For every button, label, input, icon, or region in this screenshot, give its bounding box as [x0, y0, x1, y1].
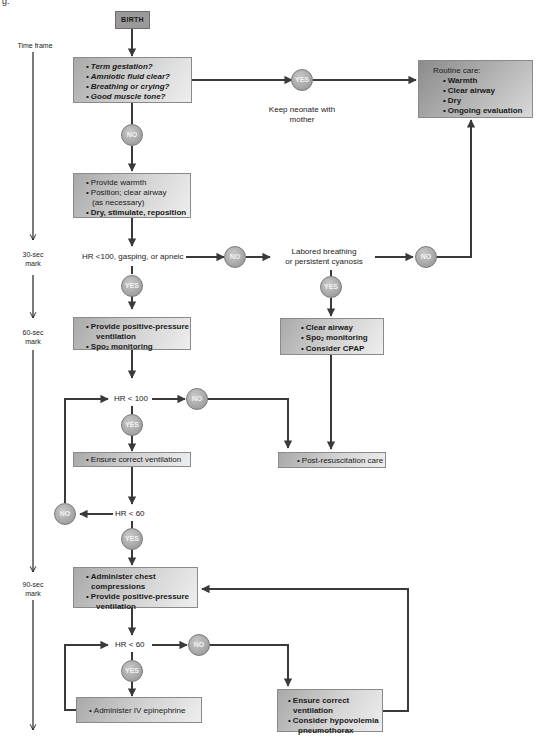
decision-yes-initial: YES — [291, 69, 313, 91]
routine-care-box: Routine care: Warmth Clear airway Dry On… — [418, 60, 533, 118]
labored-line1: Labored breathing — [272, 247, 376, 257]
decision-yes-hr60-a: YES — [121, 528, 143, 550]
decision-yes-gasping: YES — [121, 275, 143, 297]
birth-box: BIRTH — [115, 11, 150, 29]
decision-no-hr100: NO — [186, 388, 208, 410]
chest-compressions-box: Administer chest compressions Provide po… — [73, 567, 198, 608]
mark-90-line2: mark — [10, 589, 56, 598]
decision-no-initial: NO — [121, 124, 143, 146]
decision-no-hr60-a: NO — [54, 503, 76, 525]
decision-yes-hr100: YES — [121, 414, 143, 436]
cpap-spo2-prefix: Spo — [306, 333, 321, 342]
step-as-necessary: (as necessary) — [84, 198, 190, 208]
ensure-ventilation-hypovolemia-box: Ensure correct ventilation Consider hypo… — [277, 689, 383, 732]
mark-60-line2: mark — [10, 337, 56, 346]
step-clear-airway: Position; clear airway — [84, 188, 190, 198]
timeline-mark-60: 60-sec mark — [10, 328, 56, 346]
decision-no-gasping: NO — [224, 246, 246, 268]
routine-ongoing-evaluation: Ongoing evaluation — [441, 106, 532, 116]
final-pneumothorax-text: pneumothorax — [293, 726, 354, 735]
hr-gasping-apneic-label: HR <100, gasping, or apneic — [82, 252, 184, 262]
routine-dry: Dry — [441, 96, 532, 106]
question-breathing: Breathing or crying? — [84, 82, 191, 92]
mark-60-line1: 60-sec — [10, 328, 56, 337]
epinephrine-box: Administer IV epinephrine — [76, 697, 202, 723]
cpap-consider: Consider CPAP — [299, 344, 383, 354]
compressions-ppv-item: Provide positive-pressureventilation — [84, 592, 197, 612]
step-as-necessary-text: (as necessary) — [92, 198, 144, 207]
question-amniotic-fluid: Amniotic fluid clear? — [84, 72, 191, 82]
hr-lt-60-label-a: HR < 60 — [115, 509, 145, 519]
mark-90-line1: 90-sec — [10, 580, 56, 589]
initial-steps-box: Provide warmth Position; clear airway (a… — [73, 173, 191, 218]
cpap-spo2-suffix: monitoring — [324, 333, 368, 342]
timeline-mark-30: 30-sec mark — [10, 250, 56, 268]
routine-care-heading: Routine care: — [433, 66, 532, 76]
compressions-item: Administer chest compressions — [84, 572, 197, 592]
labored-breathing-label: Labored breathing or persistent cyanosis — [272, 247, 376, 267]
cpap-spo2: Spo2 monitoring — [299, 333, 383, 344]
ppv-item: Provide positive-pressureventilation — [84, 322, 190, 342]
decision-no-hr60-b: NO — [188, 634, 210, 656]
spo2-suffix: monitoring — [109, 342, 153, 351]
labored-line2: or persistent cyanosis — [272, 257, 376, 267]
step-provide-warmth: Provide warmth — [84, 178, 190, 188]
decision-yes-labored: YES — [320, 276, 342, 298]
final-ensure-ventilation: Ensure correct ventilation — [286, 696, 382, 716]
compressions-ppv-text: Provide positive-pressure — [91, 592, 189, 601]
ensure-ventilation-item: Ensure correct ventilation — [84, 455, 190, 465]
timeline-title: Time frame — [10, 41, 60, 50]
ppv-item-text-cont: ventilation — [91, 332, 136, 341]
timeline-mark-90: 90-sec mark — [10, 580, 56, 598]
routine-clear-airway: Clear airway — [441, 86, 532, 96]
step-dry-stimulate: Dry, stimulate, reposition — [84, 208, 190, 218]
mark-30-line2: mark — [10, 259, 56, 268]
final-consider-hypovolemia: Consider hypovolemiapneumothorax — [286, 716, 382, 736]
decision-yes-hr60-b: YES — [121, 660, 143, 682]
ppv-item-text: Provide positive-pressure — [91, 322, 189, 331]
spo2-item: Spo2 monitoring — [84, 342, 190, 353]
routine-warmth: Warmth — [441, 76, 532, 86]
spo2-prefix: Spo — [91, 342, 106, 351]
ensure-ventilation-box: Ensure correct ventilation — [73, 452, 191, 467]
keep-with-mother-label: Keep neonate with mother — [262, 105, 342, 125]
post-resuscitation-box: Post-resuscitation care — [278, 452, 386, 468]
question-muscle-tone: Good muscle tone? — [84, 92, 191, 102]
figure-caption-fragment: g. — [2, 0, 10, 6]
ppv-box: Provide positive-pressureventilation Spo… — [73, 317, 191, 350]
post-resuscitation-item: Post-resuscitation care — [295, 456, 385, 466]
cpap-clear-airway: Clear airway — [299, 323, 383, 333]
decision-no-labored: NO — [415, 246, 437, 268]
initial-assessment-box: Term gestation? Amniotic fluid clear? Br… — [73, 57, 192, 103]
cpap-box: Clear airway Spo2 monitoring Consider CP… — [280, 318, 384, 355]
question-term-gestation: Term gestation? — [84, 62, 191, 72]
hr-lt-60-label-b: HR < 60 — [115, 640, 145, 650]
final-hypovolemia-text: Consider hypovolemia — [293, 716, 379, 725]
mark-30-line1: 30-sec — [10, 250, 56, 259]
hr-lt-100-label: HR < 100 — [114, 394, 148, 404]
compressions-ppv-text-cont: ventilation — [91, 602, 136, 611]
epinephrine-item: Administer IV epinephrine — [87, 706, 201, 716]
